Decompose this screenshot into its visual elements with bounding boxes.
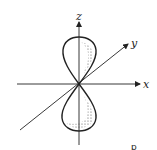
z-axis-label: z: [75, 10, 82, 23]
upper-lobe-shading: [81, 42, 93, 76]
orbital-caption: p: [131, 142, 137, 150]
lower-lobe-shading: [66, 96, 93, 128]
y-axis-label: y: [130, 37, 138, 50]
x-axis-label: x: [143, 78, 150, 91]
orbital-diagram: z y x p: [0, 0, 157, 150]
y-axis: [20, 44, 128, 130]
